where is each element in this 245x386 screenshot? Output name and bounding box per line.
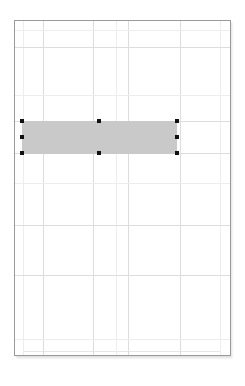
grid-vertical-line-5 xyxy=(180,21,181,355)
grid-horizontal-line-1 xyxy=(15,47,230,48)
grid-horizontal-line-5 xyxy=(15,183,230,184)
grid-vertical-line-1 xyxy=(43,21,44,355)
grid-vertical-line-3 xyxy=(116,21,117,355)
handle-middle-right[interactable] xyxy=(175,135,179,139)
grid-vertical-line-6 xyxy=(220,21,221,355)
grid-vertical-line-4 xyxy=(128,21,129,355)
grid-horizontal-line-6 xyxy=(15,225,230,226)
grid-vertical-line-2 xyxy=(93,21,94,355)
selected-rectangle-shape[interactable] xyxy=(22,121,177,154)
grid-horizontal-line-8 xyxy=(15,339,230,340)
grid-horizontal-line-0 xyxy=(15,30,230,31)
document-canvas[interactable] xyxy=(0,0,245,386)
handle-top-right[interactable] xyxy=(175,119,179,123)
handle-bottom-right[interactable] xyxy=(175,151,179,155)
handle-top-left[interactable] xyxy=(20,119,24,123)
handle-bottom-left[interactable] xyxy=(20,151,24,155)
handle-top-center[interactable] xyxy=(97,119,101,123)
grid-horizontal-line-7 xyxy=(15,275,230,276)
handle-bottom-center[interactable] xyxy=(97,151,101,155)
document-page[interactable] xyxy=(14,20,231,356)
grid-vertical-line-0 xyxy=(23,21,24,355)
grid-horizontal-line-2 xyxy=(15,95,230,96)
handle-middle-left[interactable] xyxy=(20,135,24,139)
